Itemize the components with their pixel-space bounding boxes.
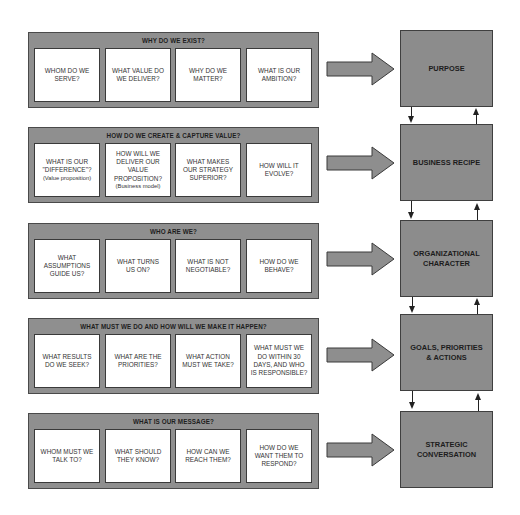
- row-panel-create-capture-value: HOW DO WE CREATE & CAPTURE VALUE? WHAT I…: [28, 127, 319, 203]
- row-panel-what-must-we-do: WHAT MUST WE DO AND HOW WILL WE MAKE IT …: [28, 318, 319, 394]
- question-card: WHAT SHOULDTHEY KNOW?: [105, 429, 171, 483]
- up-connector: [478, 399, 479, 411]
- outcome-box-organizational-character: ORGANIZATIONALCHARACTER: [400, 220, 493, 297]
- question-card: WHAT ARE THEPRIORITIES?: [105, 334, 171, 388]
- up-arrow-icon: [473, 108, 479, 115]
- panel-title: HOW DO WE CREATE & CAPTURE VALUE?: [29, 132, 318, 139]
- panel-title: WHY DO WE EXIST?: [29, 37, 318, 44]
- question-card: HOW CAN WEREACH THEM?: [175, 429, 241, 483]
- row-panel-message: WHAT IS OUR MESSAGE? WHOM MUST WETALK TO…: [28, 413, 319, 489]
- up-arrow-icon: [475, 393, 481, 400]
- panel-title: WHAT MUST WE DO AND HOW WILL WE MAKE IT …: [29, 323, 318, 330]
- row-panel-why-exist: WHY DO WE EXIST? WHOM DO WESERVE? WHAT V…: [28, 32, 319, 108]
- panel-title: WHAT IS OUR MESSAGE?: [29, 418, 318, 425]
- question-card: WHAT ACTIONMUST WE TAKE?: [175, 334, 241, 388]
- question-card: HOW WILL WEDELIVER OURVALUEPROPOSITION?(…: [105, 143, 171, 197]
- right-arrow-icon: [326, 433, 396, 467]
- right-arrow-icon: [326, 338, 396, 372]
- right-arrow-icon: [326, 52, 396, 86]
- up-connector: [477, 304, 478, 314]
- question-card: WHOM DO WESERVE?: [34, 48, 100, 102]
- question-card: HOW WILL ITEVOLVE?: [246, 143, 312, 197]
- up-connector: [477, 209, 478, 220]
- right-arrow-icon: [326, 146, 396, 180]
- outcome-box-goals-priorities-actions: GOALS, PRIORITIES& ACTIONS: [400, 314, 493, 391]
- up-arrow-icon: [474, 203, 480, 210]
- question-card: WHAT IS NOTNEGOTIABLE?: [175, 239, 241, 293]
- question-card: HOW DO WEWANT THEM TORESPOND?: [246, 429, 312, 483]
- question-card: WHAT IS OURAMBITION?: [246, 48, 312, 102]
- question-card: WHAT MAKESOUR STRATEGYSUPERIOR?: [175, 143, 241, 197]
- question-card: WHATASSUMPTIONSGUIDE US?: [34, 239, 100, 293]
- question-card: WHAT TURNSUS ON?: [105, 239, 171, 293]
- outcome-box-business-recipe: BUSINESS RECIPE: [400, 124, 493, 201]
- question-card: WHAT IS OUR"DIFFERENCE"?(Value propositi…: [34, 143, 100, 197]
- panel-title: WHO ARE WE?: [29, 228, 318, 235]
- up-connector: [476, 114, 477, 124]
- down-arrow-icon: [409, 306, 415, 313]
- question-card: WHAT VALUE DOWE DELIVER?: [105, 48, 171, 102]
- right-arrow-icon: [326, 242, 396, 276]
- question-card: WHAT RESULTSDO WE SEEK?: [34, 334, 100, 388]
- up-arrow-icon: [474, 298, 480, 305]
- question-card: HOW DO WEBEHAVE?: [246, 239, 312, 293]
- question-card: WHAT MUST WEDO WITHIN 30DAYS, AND WHOIS …: [246, 334, 312, 388]
- row-panel-who-are-we: WHO ARE WE? WHATASSUMPTIONSGUIDE US? WHA…: [28, 223, 319, 299]
- question-card: WHOM MUST WETALK TO?: [34, 429, 100, 483]
- question-card: WHY DO WEMATTER?: [175, 48, 241, 102]
- down-arrow-icon: [408, 212, 414, 219]
- down-arrow-icon: [408, 116, 414, 123]
- outcome-box-strategic-conversation: STRATEGICCONVERSATION: [400, 411, 493, 488]
- outcome-box-purpose: PURPOSE: [400, 30, 493, 107]
- down-arrow-icon: [409, 402, 415, 409]
